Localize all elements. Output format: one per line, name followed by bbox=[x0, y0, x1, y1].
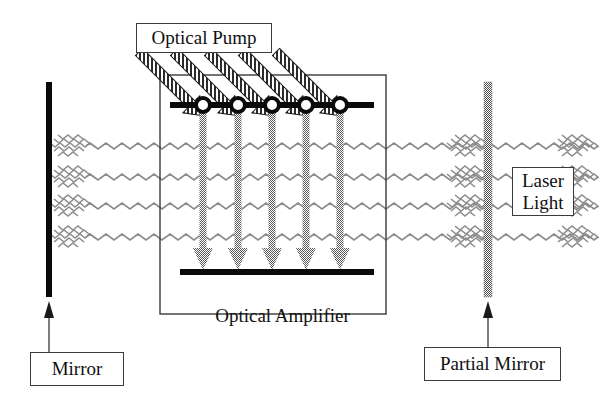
laser-beam-wave bbox=[50, 226, 599, 247]
atom-circle bbox=[333, 98, 347, 112]
stimulated-decay-arrow bbox=[330, 106, 350, 270]
optical-pump-text: Optical Pump bbox=[151, 27, 256, 48]
partial-mirror-callout-label: Partial Mirror bbox=[424, 347, 561, 381]
optical-amplifier-text: Optical Amplifier bbox=[215, 305, 350, 326]
partial-mirror-text: Partial Mirror bbox=[440, 353, 545, 374]
atom-circle bbox=[265, 98, 279, 112]
laser-light-line-2: Light bbox=[522, 192, 563, 213]
mirror-callout-label: Mirror bbox=[30, 352, 124, 386]
atom-circle bbox=[299, 98, 313, 112]
stimulated-decay-arrow bbox=[296, 106, 316, 270]
laser-light-line-1: Laser bbox=[522, 170, 564, 191]
laser-light-callout-label: Laser Light bbox=[512, 167, 574, 216]
partial-mirror-callout-arrow bbox=[483, 301, 493, 347]
laser-diagram-canvas: .beamwave { fill: none; stroke: #8d8d8d;… bbox=[0, 0, 599, 411]
stimulated-decay-arrow bbox=[228, 106, 248, 270]
right-partial-mirror-bar[interactable] bbox=[484, 82, 492, 297]
decay-arrow-group bbox=[193, 106, 350, 270]
optical-pump-label: Optical Pump bbox=[136, 23, 272, 53]
atom-circle bbox=[196, 98, 210, 112]
atom-circle bbox=[231, 98, 245, 112]
mirror-callout-arrow bbox=[44, 301, 54, 352]
left-mirror-bar[interactable] bbox=[46, 82, 52, 297]
mirror-text: Mirror bbox=[52, 358, 103, 379]
laser-beam-wave bbox=[50, 135, 599, 156]
stimulated-decay-arrow bbox=[193, 106, 213, 270]
stimulated-decay-arrow bbox=[262, 106, 282, 270]
optical-amplifier-label: Optical Amplifier bbox=[160, 283, 386, 349]
